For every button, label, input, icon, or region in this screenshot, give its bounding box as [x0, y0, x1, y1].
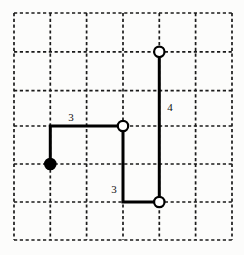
figure-canvas: 343	[0, 0, 244, 255]
node-top-open	[154, 47, 164, 57]
start-node-filled	[45, 159, 55, 169]
node-bottom-open	[154, 197, 164, 207]
node-middle-open	[118, 121, 128, 131]
label-top-segment: 3	[68, 111, 74, 123]
label-lower-segment: 3	[111, 183, 117, 195]
label-right-segment: 4	[167, 101, 173, 113]
lattice-path-figure: 343	[0, 0, 244, 255]
